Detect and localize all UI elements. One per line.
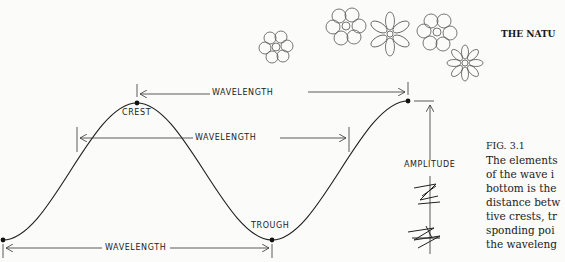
flower-icon [369,12,411,56]
crest-label: CREST [122,109,151,117]
amplitude-label: AMPLITUDE [404,161,455,169]
flower-icon [259,31,293,63]
wave-curve [3,101,408,240]
flower-icon [326,8,366,45]
caption-line: tive crests, tr [486,209,565,223]
trough-point [270,238,275,243]
flower-doodles [259,8,483,81]
pen-scribble [408,184,440,248]
caption-line: sponding poi [486,223,565,237]
wavelength-bottom-label: WAVELENGTH [105,244,166,252]
caption-line: bottom is the [486,181,565,195]
running-header: THE NATU [501,29,555,39]
figure-caption: FIG. 3.1 The elements of the wave i bott… [486,139,565,251]
flower-icon [447,45,483,81]
caption-line: the waveleng [486,237,565,251]
crest-point [135,101,140,106]
caption-line: distance betw [486,195,565,209]
crest-point-right [406,99,411,104]
trough-point-left [1,238,6,243]
wavelength-middle-label: WAVELENGTH [195,134,256,142]
flower-icon [417,14,457,51]
figure-number: FIG. 3.1 [486,139,565,153]
caption-line: The elements [486,153,565,167]
wavelength-top-label: WAVELENGTH [212,89,273,97]
trough-label: TROUGH [251,222,289,230]
caption-line: of the wave i [486,167,565,181]
